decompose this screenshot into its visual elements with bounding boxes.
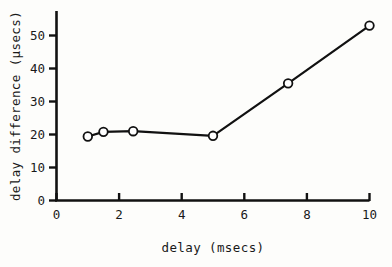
x-tick-label-4: 4 [178,207,186,222]
data-point-1 [99,128,108,137]
line-chart: 01020304050 0246810 delay (msecs) delay … [0,0,392,267]
data-point-0 [84,132,93,141]
y-tick-label-30: 30 [30,94,45,109]
x-tick-label-0: 0 [53,207,61,222]
chart-background [0,0,392,267]
x-tick-label-10: 10 [362,207,377,222]
x-axis-title: delay (msecs) [161,240,264,255]
data-point-4 [284,79,293,88]
y-tick-label-40: 40 [30,61,45,76]
data-point-5 [365,21,374,30]
y-tick-label-10: 10 [30,160,45,175]
data-point-3 [209,132,218,141]
y-tick-label-50: 50 [30,28,45,43]
y-tick-label-0: 0 [37,193,45,208]
data-point-2 [129,127,138,136]
x-tick-label-8: 8 [303,207,311,222]
x-tick-label-2: 2 [115,207,123,222]
y-axis-title: delay difference (μsecs) [8,11,23,201]
x-tick-label-6: 6 [241,207,249,222]
y-tick-label-20: 20 [30,127,45,142]
chart-figure: 01020304050 0246810 delay (msecs) delay … [0,0,392,267]
